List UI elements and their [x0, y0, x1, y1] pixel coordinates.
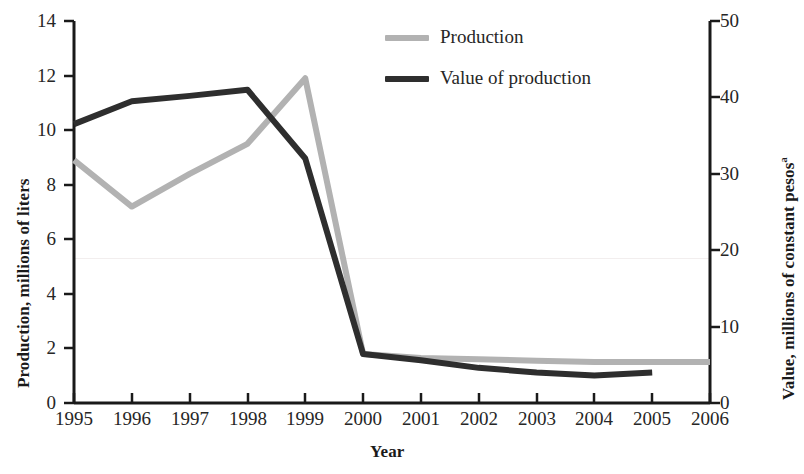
- series-line-value-of-production: [74, 90, 652, 376]
- chart-figure: Production, millions of liters Value, mi…: [0, 0, 804, 474]
- series-line-production: [74, 78, 710, 362]
- plot-area: [0, 0, 804, 474]
